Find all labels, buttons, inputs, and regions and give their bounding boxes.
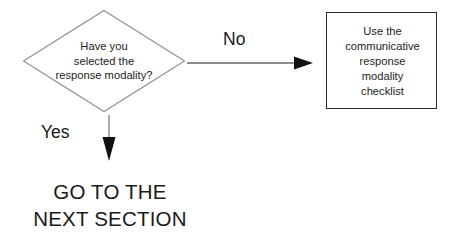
- arrow-no: [187, 57, 313, 70]
- arrow-yes: [103, 115, 116, 161]
- edge-label-no: No: [223, 30, 245, 49]
- edge-label-yes: Yes: [41, 123, 70, 142]
- terminal-line-1: GO TO THE: [0, 178, 220, 205]
- process-line-3: response: [359, 54, 405, 69]
- decision-node[interactable]: Have you selected the response modality?: [22, 9, 186, 113]
- terminal-line-2: NEXT SECTION: [0, 205, 220, 232]
- flowchart-canvas: Have you selected the response modality?…: [0, 0, 458, 238]
- process-line-2: communicative: [345, 39, 420, 54]
- decision-line-3: response modality?: [55, 68, 152, 83]
- decision-line-1: Have you: [80, 39, 127, 54]
- process-label: Use the communicative response modality …: [327, 13, 438, 110]
- process-line-1: Use the: [363, 24, 402, 39]
- decision-label: Have you selected the response modality?: [22, 9, 186, 113]
- process-line-4: modality: [362, 69, 404, 84]
- decision-line-2: selected the: [74, 54, 134, 69]
- process-line-5: checklist: [361, 84, 404, 99]
- process-node[interactable]: Use the communicative response modality …: [326, 12, 437, 109]
- terminal-node: GO TO THE NEXT SECTION: [0, 178, 220, 232]
